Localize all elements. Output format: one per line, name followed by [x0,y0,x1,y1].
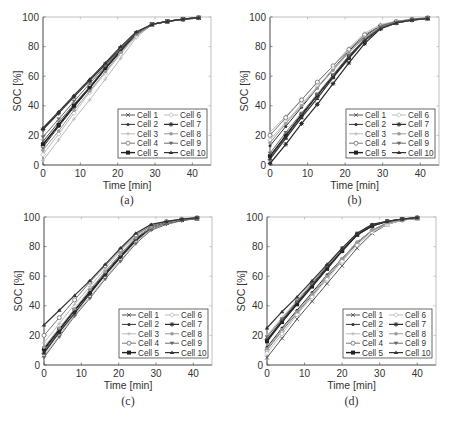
legend-entry-label: Cell 5 [365,149,386,158]
x-tick-label: 0 [267,168,273,179]
x-axis-label: Time [min] [104,379,153,391]
x-tick-label: 30 [149,168,161,179]
legend-entry-label: Cell 8 [180,130,201,139]
legend: Cell 1Cell 2Cell 3Cell 4Cell 5Cell 6Cell… [118,109,207,158]
square-marker [126,151,130,155]
legend-entry-label: Cell 8 [408,130,429,139]
hexagram-marker [169,132,173,136]
circle-marker [351,341,355,345]
circle-marker [354,141,358,145]
legend-entry-label: Cell 1 [362,311,383,320]
dot-marker [269,144,272,147]
y-tick-label: 0 [34,360,40,371]
y-tick-label: 20 [28,130,40,141]
dot-marker [127,123,130,126]
y-axis-label: SOC [%] [238,70,250,111]
hexagram-marker [134,236,138,240]
x-tick-label: 10 [302,168,314,179]
star-marker [397,122,402,127]
legend-entry-label: Cell 4 [362,339,383,348]
hexagram-marker [103,270,107,274]
square-marker [351,351,355,355]
legend-entry-label: Cell 2 [138,320,159,329]
legend: Cell 1Cell 2Cell 3Cell 4Cell 5Cell 6Cell… [346,109,435,158]
hexagram-marker [397,132,401,136]
legend-entry-label: Cell 4 [365,139,386,148]
panel-d: 020406080100010203040Time [min]SOC [%](d… [235,212,436,409]
y-tick-label: 0 [257,360,263,371]
hexagram-marker [268,141,272,145]
legend-entry-label: Cell 1 [137,111,158,120]
circle-marker [300,98,304,102]
panel-caption: (d) [345,394,359,408]
star-marker [169,122,174,127]
x-axis-label: Time [min] [330,179,379,191]
legend-entry-label: Cell 3 [137,130,158,139]
x-axis-label: Time [min] [327,379,376,391]
hexagram-marker [316,86,320,90]
legend-entry-label: Cell 8 [181,330,202,339]
y-tick-label: 40 [255,100,267,111]
y-tick-label: 20 [255,130,267,141]
legend: Cell 1Cell 2Cell 3Cell 4Cell 5Cell 6Cell… [119,309,208,358]
legend-entry-label: Cell 3 [362,330,383,339]
hexagram-marker [119,252,123,256]
hexagram-marker [149,226,153,230]
circle-marker [73,298,77,302]
x-tick-label: 10 [76,368,88,379]
legend-entry-label: Cell 10 [180,149,206,158]
legend-entry-label: Cell 10 [405,349,431,358]
hexagram-marker [284,122,288,126]
legend-entry-label: Cell 1 [138,311,159,320]
x-tick-label: 30 [374,368,386,379]
x-tick-label: 30 [377,168,389,179]
hexagram-marker [310,292,314,296]
legend-entry-label: Cell 6 [180,111,201,120]
panel-c: 020406080100010203040Time [min]SOC [%](c… [12,212,212,409]
y-tick-label: 40 [252,300,264,311]
star-marker [394,322,399,327]
y-tick-label: 80 [252,241,264,252]
y-tick-label: 100 [23,212,40,223]
star-marker [170,322,175,327]
panel-b: 020406080100010203040Time [min]SOC [%](b… [238,12,439,208]
hexagram-marker [73,307,77,311]
legend: Cell 1Cell 2Cell 3Cell 4Cell 5Cell 6Cell… [343,309,432,358]
panel-caption: (b) [348,193,362,207]
x-tick-label: 20 [113,368,125,379]
square-marker [72,104,76,108]
y-tick-label: 80 [255,41,267,52]
hexagram-marker [88,89,92,93]
panel-caption: (c) [121,394,134,408]
hexagram-marker [394,332,398,336]
y-tick-label: 100 [22,12,39,23]
y-tick-label: 100 [246,212,263,223]
hexagram-marker [57,129,61,133]
x-tick-label: 0 [264,368,270,379]
hexagram-marker [370,229,374,233]
x-tick-label: 20 [340,168,352,179]
dot-marker [355,123,358,126]
y-tick-label: 60 [255,71,267,82]
square-marker [41,142,45,146]
star-marker [268,161,273,166]
soc-charging-figure: 020406080100010203040Time [min]SOC [%](a… [0,0,455,421]
hexagram-marker [72,108,76,112]
legend-entry-label: Cell 10 [408,149,434,158]
y-tick-label: 80 [28,41,40,52]
y-tick-label: 100 [249,12,266,23]
y-tick-label: 0 [33,160,39,171]
x-tick-label: 40 [415,168,427,179]
star-marker [299,121,304,126]
legend-entry-label: Cell 5 [138,349,159,358]
y-tick-label: 40 [28,100,40,111]
circle-marker [284,116,288,120]
x-tick-label: 40 [187,168,199,179]
legend-entry-label: Cell 7 [408,120,429,129]
legend-entry-label: Cell 3 [138,330,159,339]
hexagram-marker [325,274,329,278]
hexagram-marker [170,332,174,336]
legend-entry-label: Cell 1 [365,111,386,120]
y-tick-label: 60 [252,271,264,282]
circle-marker [268,133,272,137]
